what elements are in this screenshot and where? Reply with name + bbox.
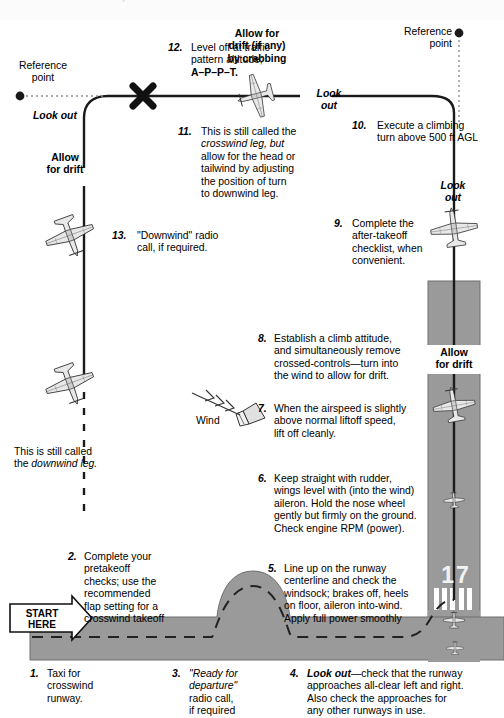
step-5-line-5: Apply full power smoothly	[284, 613, 402, 624]
step-5-number: 5.	[268, 563, 277, 575]
flight-track-downwind-turn-left	[84, 96, 108, 136]
step-2-line-3: checks; use the	[84, 576, 156, 587]
step-6-line-5: Check engine RPM (power).	[274, 523, 405, 534]
step-11-line-2: crosswind leg, but	[201, 138, 284, 149]
step-7-number: 7.	[258, 403, 267, 415]
allow-for-drift-runway-label: Allow for drift	[424, 345, 484, 374]
step-2: 2. Complete your pretakeoff checks; use …	[68, 551, 228, 625]
step-11-number: 11.	[178, 126, 192, 138]
step-3-line-1: "Ready for	[189, 668, 238, 679]
step-9-line-3: checklist, when	[352, 243, 422, 254]
step-11-line-6: to downwind leg.	[201, 188, 278, 199]
reference-point-left-label: Reference point	[4, 60, 82, 85]
step-12-number: 12.	[168, 42, 182, 54]
step-8-line-2: and simultaneously remove	[274, 345, 400, 356]
step-5-line-2: centerline and check the	[284, 575, 397, 586]
step-8-number: 8.	[258, 333, 267, 345]
look-out-climbout-label: Look out	[430, 180, 476, 205]
step-7-line-3: lift off cleanly.	[274, 428, 336, 439]
step-12-line-2: pattern altitude;	[191, 54, 263, 65]
step-8-line-1: Establish a climb attitude,	[274, 333, 392, 344]
step-1-number: 1.	[30, 668, 39, 680]
step-4-line-1-tail: —check that the runway	[351, 668, 462, 679]
step-6-line-2: wings level with (into the wind)	[274, 485, 414, 496]
downwind-note-prefix: the	[14, 458, 31, 469]
step-5: 5. Line up on the runway centerline and …	[268, 563, 428, 625]
step-6-number: 6.	[258, 473, 267, 485]
step-10-number: 10.	[352, 120, 366, 132]
step-9-line-1: Complete the	[352, 218, 414, 229]
step-11-line-5: the position of turn	[201, 176, 287, 187]
reference-point-right-label: Reference point	[378, 26, 452, 51]
step-8-line-3: crossed-controls—turn into	[274, 358, 398, 369]
step-9-line-4: convenient.	[352, 255, 405, 266]
step-5-line-4: on floor, aileron into-wind.	[284, 600, 402, 611]
reference-point-right-marker	[455, 29, 464, 122]
start-here-label: START HERE	[12, 608, 72, 630]
step-9-line-2: after-takeoff	[352, 230, 407, 241]
downwind-note-italic: downwind leg.	[31, 458, 97, 469]
step-10-line-1: Execute a climbing	[377, 120, 464, 131]
step-6: 6. Keep straight with rudder, wings leve…	[258, 473, 436, 535]
step-2-line-1: Complete your	[84, 551, 152, 562]
look-out-crosswind-label: Look out	[306, 88, 352, 113]
step-4: 4. Look out—check that the runway approa…	[290, 668, 500, 718]
step-4-lead-emphasis: Look out	[307, 668, 351, 679]
step-13-number: 13.	[112, 230, 126, 242]
step-8-line-4: the wind to allow for drift.	[274, 370, 389, 381]
step-7-line-1: When the airspeed is slightly	[274, 403, 406, 414]
downwind-leg-note: This is still called the downwind leg.	[14, 446, 144, 471]
allow-for-drift-left-label: Allow for drift	[28, 152, 102, 177]
step-1: 1. Taxi for crosswind runway.	[30, 668, 140, 705]
look-out-left-label: Look out	[33, 110, 77, 122]
step-2-number: 2.	[68, 551, 77, 563]
step-4-number: 4.	[290, 668, 299, 680]
step-7-line-2: above normal liftoff speed,	[274, 415, 396, 426]
wind-direction-arrows	[192, 390, 240, 415]
step-5-line-3: windsock; brakes off, heels	[284, 588, 409, 599]
step-6-line-1: Keep straight with rudder,	[274, 473, 392, 484]
step-11-line-1: This is still called the	[201, 126, 296, 137]
step-3: 3. "Ready for departure" radio call, if …	[172, 668, 282, 718]
step-10-line-2: turn above 500 ft AGL	[377, 132, 478, 143]
step-2-line-6: crosswind takeoff	[84, 613, 164, 624]
step-3-line-4: if required	[189, 705, 235, 716]
runway-designator-17: 17	[436, 562, 476, 589]
step-6-line-4: gently but firmly on the ground.	[274, 510, 417, 521]
step-3-number: 3.	[172, 668, 181, 680]
step-3-line-2: departure"	[189, 680, 237, 691]
step-13: 13. "Downwind" radio call, if required.	[112, 230, 252, 255]
step-7: 7. When the airspeed is slightly above n…	[258, 403, 428, 440]
step-11-line-4: tailwind by adjusting	[201, 163, 294, 174]
step-4-line-2: approaches all-clear left and right.	[307, 680, 464, 691]
step-11-line-3: allow for the head or	[201, 151, 295, 162]
wind-label: Wind	[196, 415, 220, 427]
step-12-line-3: A–P–P–T.	[191, 67, 238, 78]
step-2-line-5: flap setting for a	[84, 601, 158, 612]
step-8: 8. Establish a climb attitude, and simul…	[258, 333, 428, 383]
step-4-line-3: Also check the approaches for	[307, 693, 447, 704]
step-1-line-1: Taxi for	[47, 668, 81, 679]
step-9-number: 9.	[334, 218, 343, 230]
step-1-line-3: runway.	[47, 693, 83, 704]
airplane-downwind-upper	[40, 209, 100, 264]
step-2-line-2: pretakeoff	[84, 563, 130, 574]
step-12: 12. Level off at traffic pattern altitud…	[168, 42, 318, 79]
step-12-line-1: Level off at traffic	[191, 42, 270, 53]
step-5-line-1: Line up on the runway	[284, 563, 386, 574]
step-13-line-1: "Downwind" radio	[137, 230, 218, 241]
airplane-downwind-lower	[40, 357, 100, 412]
step-4-line-4: any other runways in use.	[307, 705, 425, 716]
diagram-canvas: for the airplane.	[0, 0, 504, 718]
step-1-line-2: crosswind	[47, 680, 93, 691]
step-3-line-3: radio call,	[189, 693, 233, 704]
step-13-line-2: call, if required.	[137, 242, 207, 253]
step-9: 9. Complete the after-takeoff checklist,…	[334, 218, 444, 268]
step-11: 11. This is still called the crosswind l…	[178, 126, 338, 200]
step-6-line-3: aileron. Hold the nose wheel	[274, 498, 405, 509]
step-10: 10. Execute a climbing turn above 500 ft…	[352, 120, 502, 145]
step-2-line-4: recommended	[84, 588, 150, 599]
